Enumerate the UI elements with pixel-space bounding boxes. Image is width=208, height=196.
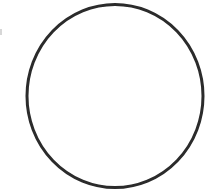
circle-outline: [27, 5, 203, 188]
diagram-canvas: [0, 0, 208, 196]
circle-diagram: [0, 0, 208, 196]
